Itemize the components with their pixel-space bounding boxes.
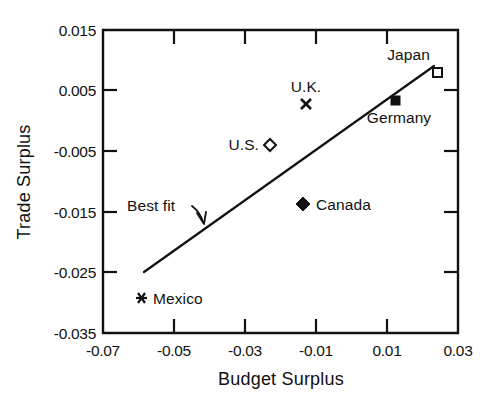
y-axis-ticks (103, 90, 117, 272)
chart-canvas: 0.015 0.005 -0.005 -0.015 -0.025 -0.035 … (0, 0, 492, 401)
data-point-japan: Japan (387, 46, 442, 77)
x-tick-label: 0.03 (444, 342, 473, 359)
y-tick-label: 0.005 (59, 82, 96, 99)
best-fit-annotation-arrow (192, 206, 206, 224)
y-tick-label: -0.025 (54, 264, 96, 281)
axes-border (103, 30, 458, 333)
filled-diamond-marker (296, 197, 310, 211)
star-marker (136, 293, 147, 303)
scatter-plot-figure: 0.015 0.005 -0.005 -0.015 -0.025 -0.035 … (0, 0, 492, 401)
x-axis-ticks (174, 319, 387, 333)
y-axis-ticks-right (444, 90, 458, 272)
x-tick-label: -0.05 (157, 342, 191, 359)
y-tick-label: -0.035 (54, 325, 96, 342)
x-tick-label: -0.03 (228, 342, 262, 359)
cross-marker (301, 99, 311, 109)
y-tick-label: 0.015 (59, 22, 96, 39)
y-tick-labels: 0.015 0.005 -0.005 -0.015 -0.025 -0.035 (54, 22, 96, 342)
x-tick-label: 0.01 (373, 342, 402, 359)
data-point-label: U.K. (291, 78, 322, 95)
x-axis-ticks-top (174, 30, 387, 44)
data-point-label: Canada (316, 196, 371, 213)
data-point-germany: Germany (367, 96, 432, 126)
x-tick-labels: -0.07 -0.05 -0.03 -0.01 0.01 0.03 (86, 342, 472, 359)
open-diamond-marker (264, 139, 276, 151)
open-square-marker (433, 68, 442, 77)
data-point-label: Japan (387, 46, 430, 63)
best-fit-label: Best fit (127, 197, 176, 214)
data-point-mexico: Mexico (136, 290, 203, 307)
filled-square-marker (391, 96, 400, 105)
x-tick-label: -0.01 (299, 342, 333, 359)
y-tick-label: -0.005 (54, 143, 96, 160)
plot-frame (103, 30, 458, 333)
y-axis-title: Trade Surplus (14, 125, 34, 240)
data-point-us: U.S. (228, 136, 276, 153)
data-point-label: Germany (367, 109, 432, 126)
x-tick-label: -0.07 (86, 342, 120, 359)
x-axis-title: Budget Surplus (218, 369, 344, 389)
data-point-canada: Canada (296, 196, 371, 213)
data-point-label: Mexico (153, 290, 203, 307)
data-point-label: U.S. (228, 136, 259, 153)
data-point-uk: U.K. (291, 78, 322, 109)
y-tick-label: -0.015 (54, 204, 96, 221)
